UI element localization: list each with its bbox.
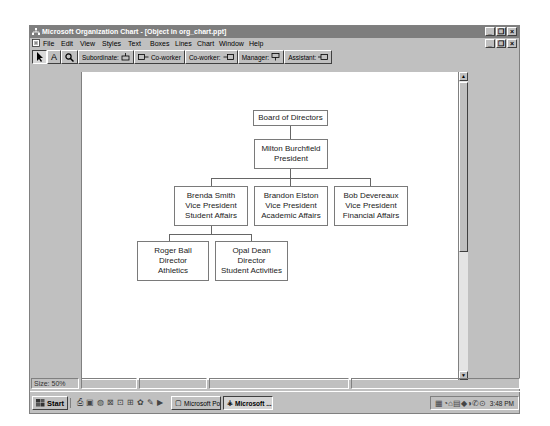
start-label: Start xyxy=(47,399,64,408)
system-tray: ▦◔⌂▤◆◑✆⊙ 3:48 PM xyxy=(430,396,519,410)
coworker-left-button[interactable]: Co-worker xyxy=(134,50,185,64)
start-button[interactable]: Start xyxy=(32,396,68,410)
box-line: Opal Dean xyxy=(216,246,287,256)
box-line: Director xyxy=(216,256,287,266)
taskbar: Start ⎙ ▣ ◍ ⊠ ⊡ ⊞ ✿ ✎ ▶ ▢ Microsoft Pow.… xyxy=(30,391,521,414)
connector-line xyxy=(290,125,291,139)
box-line: Brandon Elston xyxy=(255,191,327,201)
org-box-vp-academic-affairs[interactable]: Brandon Elston Vice President Academic A… xyxy=(254,186,328,226)
select-tool-button[interactable] xyxy=(32,50,47,64)
org-chart-app-icon xyxy=(32,28,40,36)
box-line: Brenda Smith xyxy=(175,191,247,201)
menu-text[interactable]: Text xyxy=(128,38,141,49)
box-line: Vice President xyxy=(255,201,327,211)
taskbar-org-chart[interactable]: ⚶ Microsoft ... xyxy=(223,396,273,410)
box-line: Student Activities xyxy=(216,266,287,276)
window-title: Microsoft Organization Chart - [Object i… xyxy=(42,26,226,38)
org-box-president[interactable]: Milton Burchfield President xyxy=(254,139,328,169)
scroll-thumb[interactable] xyxy=(459,82,468,252)
task-label: Microsoft ... xyxy=(235,400,271,407)
box-line: Milton Burchfield xyxy=(255,144,327,154)
connector-line xyxy=(251,234,252,241)
vertical-scrollbar[interactable]: ▲ ▼ xyxy=(458,72,468,380)
box-line: Bob Devereaux xyxy=(335,191,407,201)
toolbar: A Subordinate: Co-worker Co-worker: Mana… xyxy=(32,50,332,64)
quick-launch: ⎙ ▣ ◍ ⊠ ⊡ ⊞ ✿ ✎ ▶ xyxy=(70,398,169,408)
outlook-icon[interactable]: ◍ xyxy=(97,398,104,408)
org-chart-window: Microsoft Organization Chart - [Object i… xyxy=(29,25,520,414)
menu-boxes[interactable]: Boxes xyxy=(150,38,169,49)
box-line: Financial Affairs xyxy=(335,211,407,221)
org-box-director-student-activities[interactable]: Opal Dean Director Student Activities xyxy=(215,241,288,281)
coworker-left-icon xyxy=(138,54,149,60)
magnifier-icon xyxy=(65,53,74,62)
subordinate-icon xyxy=(121,53,130,61)
desktop-icon[interactable]: ▣ xyxy=(86,398,94,408)
assistant-label: Assistant: xyxy=(288,54,316,61)
zoom-size-status: Size: 50% xyxy=(31,378,79,389)
menu-lines[interactable]: Lines xyxy=(175,38,192,49)
coworker-right-label: Co-worker: xyxy=(189,54,221,61)
status-pane xyxy=(139,378,207,389)
org-box-director-athletics[interactable]: Roger Ball Director Athletics xyxy=(137,241,209,281)
box-line: Director xyxy=(138,256,208,266)
tray-icons[interactable]: ▦◔⌂▤◆◑✆⊙ xyxy=(435,399,486,408)
connector-line xyxy=(169,234,252,235)
coworker-left-label: Co-worker xyxy=(151,54,181,61)
printer-icon[interactable]: ⎙ xyxy=(77,398,83,408)
org-box-vp-financial-affairs[interactable]: Bob Devereaux Vice President Financial A… xyxy=(334,186,408,226)
menu-chart[interactable]: Chart xyxy=(197,38,214,49)
task-label: Microsoft Pow... xyxy=(184,400,221,407)
box-line: Board of Directors xyxy=(254,113,327,123)
assistant-icon xyxy=(318,54,328,60)
scroll-up-button[interactable]: ▲ xyxy=(459,72,468,81)
close-button[interactable]: × xyxy=(507,27,517,36)
connector-line xyxy=(290,168,291,178)
arrow-icon[interactable]: ▶ xyxy=(157,398,163,408)
text-a-icon: A xyxy=(51,53,57,62)
box-line: Academic Affairs xyxy=(255,211,327,221)
status-pane xyxy=(351,378,520,389)
minimize-button[interactable]: _ xyxy=(485,27,495,36)
doc-restore-button[interactable]: ❐ xyxy=(496,39,506,48)
coworker-right-button[interactable]: Co-worker: xyxy=(185,50,238,64)
org-box-vp-student-affairs[interactable]: Brenda Smith Vice President Student Affa… xyxy=(174,186,248,226)
manager-button[interactable]: Manager: xyxy=(238,50,284,64)
menu-file[interactable]: File xyxy=(43,38,54,49)
taskbar-powerpoint[interactable]: ▢ Microsoft Pow... xyxy=(171,396,221,410)
assistant-button[interactable]: Assistant: xyxy=(284,50,332,64)
box-line: Athletics xyxy=(138,266,208,276)
connector-line xyxy=(211,225,212,234)
doc-close-button[interactable]: × xyxy=(507,39,517,48)
menu-help[interactable]: Help xyxy=(249,38,263,49)
menu-view[interactable]: View xyxy=(80,38,95,49)
connector-line xyxy=(290,178,291,186)
menu-edit[interactable]: Edit xyxy=(61,38,73,49)
box-line: Student Affairs xyxy=(175,211,247,221)
subordinate-button[interactable]: Subordinate: xyxy=(78,50,134,64)
status-bar: Size: 50% xyxy=(30,378,520,390)
status-pane xyxy=(81,378,137,389)
chart-canvas[interactable]: Board of Directors Milton Burchfield Pre… xyxy=(81,72,459,380)
restore-button[interactable]: ❐ xyxy=(496,27,506,36)
org-chart-icon: ⚶ xyxy=(227,399,233,407)
excel-icon[interactable]: ⊠ xyxy=(107,398,114,408)
connector-line xyxy=(169,234,170,241)
status-pane xyxy=(209,378,349,389)
zoom-tool-button[interactable] xyxy=(61,50,78,64)
menu-styles[interactable]: Styles xyxy=(102,38,121,49)
access-icon[interactable]: ⊞ xyxy=(127,398,134,408)
document-icon[interactable] xyxy=(32,39,40,47)
menu-window[interactable]: Window xyxy=(219,38,244,49)
text-tool-button[interactable]: A xyxy=(47,50,61,64)
manager-label: Manager: xyxy=(242,54,269,61)
pointer-icon xyxy=(36,52,43,62)
notepad-icon[interactable]: ✎ xyxy=(147,398,154,408)
network-icon[interactable]: ✿ xyxy=(137,398,144,408)
title-bar[interactable]: Microsoft Organization Chart - [Object i… xyxy=(30,26,519,38)
box-line: Roger Ball xyxy=(138,246,208,256)
word-icon[interactable]: ⊡ xyxy=(117,398,124,408)
powerpoint-icon: ▢ xyxy=(175,399,182,407)
org-box-board[interactable]: Board of Directors xyxy=(253,110,328,126)
doc-minimize-button[interactable]: _ xyxy=(485,39,495,48)
